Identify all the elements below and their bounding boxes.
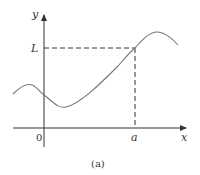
- x-axis-label: x: [181, 131, 188, 144]
- a-label: a: [131, 131, 138, 144]
- limit-diagram: y L 0 a x (a): [0, 0, 200, 175]
- y-axis-label: y: [31, 8, 39, 21]
- figure-caption: (a): [91, 158, 105, 169]
- L-label: L: [30, 42, 38, 55]
- origin-label: 0: [36, 132, 42, 143]
